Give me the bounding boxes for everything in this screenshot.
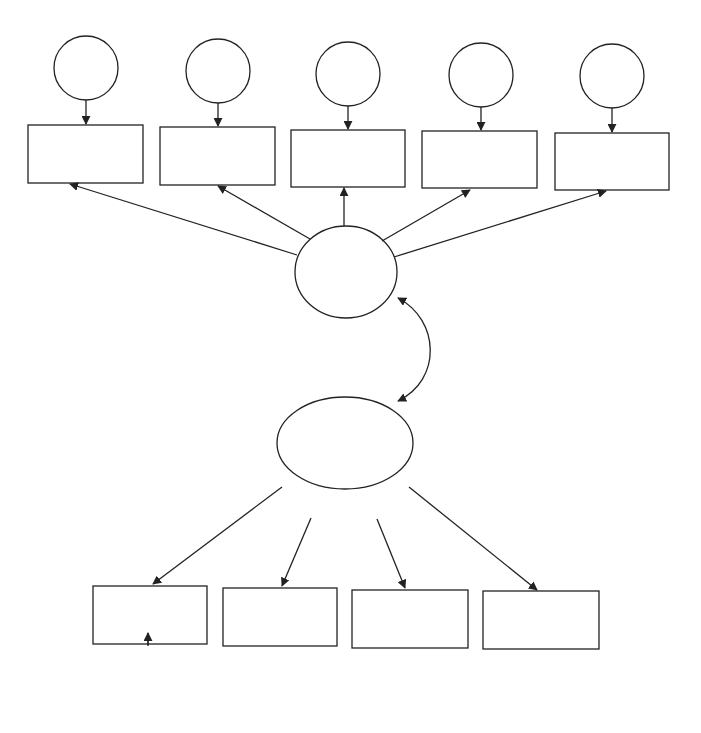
latent-ellipse — [295, 226, 397, 318]
indicator-box — [422, 131, 537, 188]
error-term-e5 — [54, 36, 118, 100]
indicator-box — [483, 591, 599, 649]
indicator-box — [28, 125, 143, 183]
loading-arrow-earth-science — [153, 487, 282, 584]
covariance-arc — [398, 298, 430, 401]
latent-science — [277, 397, 413, 489]
indicator-box — [291, 130, 405, 187]
indicator-chemistry — [483, 591, 599, 649]
loading-arrow-fractions — [70, 184, 297, 255]
indicator-box — [160, 127, 275, 185]
loading-arrow-geometry — [218, 186, 310, 239]
loading-arrow-physics — [377, 519, 405, 588]
latent-ellipse — [277, 397, 413, 489]
indicator-box — [223, 588, 337, 646]
loading-arrow-measurement — [394, 191, 606, 257]
sem-path-diagram — [0, 0, 701, 733]
error-circle — [316, 42, 380, 106]
indicator-life-science — [223, 588, 337, 646]
error-term-e9 — [580, 44, 644, 108]
loading-arrow-life-science — [282, 518, 311, 586]
loading-arrow-data — [382, 190, 470, 241]
indicator-earth-science — [93, 586, 207, 644]
error-term-e6 — [186, 39, 250, 103]
error-term-e8 — [449, 43, 513, 107]
error-term-e7 — [316, 42, 380, 106]
error-circle — [449, 43, 513, 107]
indicator-geometry — [160, 127, 275, 185]
indicator-box — [555, 133, 669, 190]
indicator-algebra — [291, 130, 405, 187]
indicator-box — [352, 590, 468, 648]
error-circle — [186, 39, 250, 103]
indicator-box — [93, 586, 207, 644]
loading-arrow-chemistry — [409, 487, 537, 590]
error-circle — [580, 44, 644, 108]
error-circle — [54, 36, 118, 100]
latent-mathematics — [295, 226, 397, 318]
indicator-fractions — [28, 125, 143, 183]
indicator-data — [422, 131, 537, 188]
indicator-measurement — [555, 133, 669, 190]
indicator-physics — [352, 590, 468, 648]
